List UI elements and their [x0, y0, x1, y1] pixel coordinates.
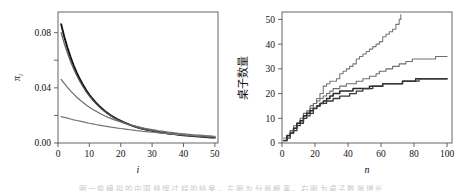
right-x-tick-label: 0 — [280, 149, 285, 159]
right-y-tick-label: 40 — [266, 40, 276, 50]
left-x-tick-label: 30 — [147, 149, 157, 159]
left-y-tick-label: 0.04 — [34, 83, 51, 93]
left-x-tick-label: 10 — [85, 149, 95, 159]
left-x-tick-label: 0 — [56, 149, 61, 159]
right-y-tick-label: 30 — [266, 64, 276, 74]
left-y-tick-label: 0.00 — [34, 138, 51, 148]
right-plot-frame — [282, 12, 452, 143]
right-plot-svg: 02040608010001020304050n桌子数量 — [230, 0, 461, 191]
svg-text:桌子数量: 桌子数量 — [237, 56, 250, 100]
right-x-tick-label: 60 — [376, 149, 386, 159]
left-plot-svg: 010203040500.000.040.08iπi — [0, 0, 230, 191]
figure-caption: 图 一 些 模 拟 的 中 国 餐 馆 过 程 的 结 果 ， 左 图 为 分 … — [0, 183, 461, 191]
left-curve — [61, 24, 215, 137]
left-x-tick-label: 50 — [210, 149, 220, 159]
svg-text:πi: πi — [11, 74, 25, 81]
right-y-tick-label: 20 — [266, 89, 276, 99]
left-plot-frame — [58, 12, 218, 143]
right-y-tick-label: 50 — [266, 15, 276, 25]
right-y-tick-label: 10 — [266, 114, 276, 124]
right-x-tick-label: 20 — [310, 149, 320, 159]
right-x-tick-label: 80 — [409, 149, 419, 159]
right-y-axis-title: 桌子数量 — [237, 56, 250, 100]
right-curve — [284, 14, 401, 138]
left-panel: 010203040500.000.040.08iπi — [0, 0, 230, 191]
right-x-axis-title: n — [365, 164, 370, 175]
left-x-axis-title: i — [137, 164, 140, 175]
right-x-tick-label: 40 — [343, 149, 353, 159]
figure-container: 010203040500.000.040.08iπi 0204060801000… — [0, 0, 461, 191]
left-x-tick-label: 40 — [179, 149, 189, 159]
right-panel: 02040608010001020304050n桌子数量 — [230, 0, 460, 191]
left-y-tick-label: 0.08 — [34, 28, 51, 38]
right-curve — [284, 56, 447, 140]
left-x-tick-label: 20 — [116, 149, 126, 159]
right-curve — [284, 79, 447, 141]
right-x-tick-label: 100 — [440, 149, 455, 159]
right-y-tick-label: 0 — [270, 138, 275, 148]
left-y-axis-title: πi — [11, 74, 25, 81]
